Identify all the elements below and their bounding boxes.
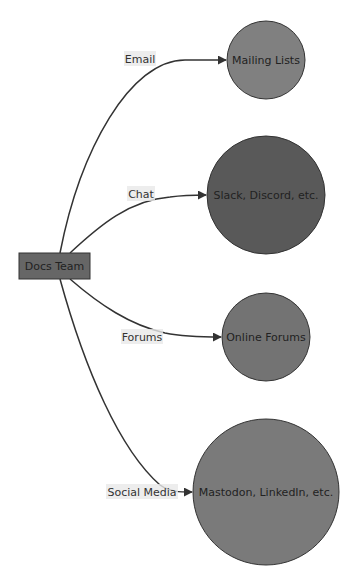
mastodon-linkedin-label: Mastodon, LinkedIn, etc.: [199, 486, 333, 499]
slack-discord-label: Slack, Discord, etc.: [213, 189, 318, 202]
diagram-canvas: Docs Team Mailing Lists Slack, Discord, …: [0, 0, 359, 583]
node-slack-discord[interactable]: Slack, Discord, etc.: [207, 136, 325, 254]
node-docs-team[interactable]: Docs Team: [19, 253, 90, 279]
docs-team-label: Docs Team: [25, 260, 85, 273]
edge-label-chat-text: Chat: [128, 188, 154, 201]
edge-label-social-media: Social Media: [106, 484, 178, 499]
edge-label-social-media-text: Social Media: [107, 486, 176, 499]
edge-label-email: Email: [124, 51, 156, 66]
edge-chat: [70, 195, 206, 253]
edge-label-forums-text: Forums: [122, 331, 163, 344]
node-mailing-lists[interactable]: Mailing Lists: [227, 21, 305, 99]
node-mastodon-linkedin[interactable]: Mastodon, LinkedIn, etc.: [193, 419, 339, 565]
online-forums-label: Online Forums: [226, 331, 306, 344]
edge-label-chat: Chat: [127, 186, 155, 201]
edge-label-email-text: Email: [125, 53, 156, 66]
mailing-lists-label: Mailing Lists: [232, 54, 300, 67]
edge-email: [60, 60, 226, 253]
edge-social-media: [60, 279, 192, 492]
edge-label-forums: Forums: [121, 329, 163, 344]
node-online-forums[interactable]: Online Forums: [222, 293, 310, 381]
edge-forums: [70, 279, 221, 337]
